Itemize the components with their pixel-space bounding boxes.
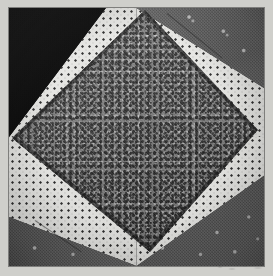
screenshot-root: Photograph of a pieced quilt block: a la… xyxy=(0,0,273,276)
quilt-block-photo xyxy=(9,8,264,266)
quilt-block-stage xyxy=(9,8,264,266)
